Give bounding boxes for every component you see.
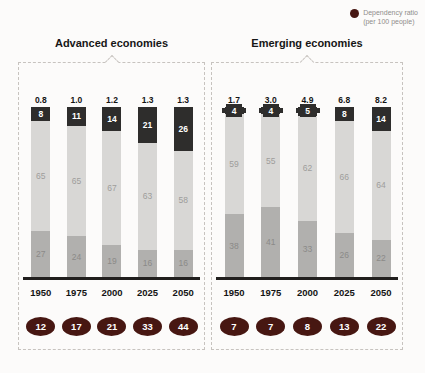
legend-label-line1: Dependency ratio (363, 8, 418, 17)
stacked-bar: 8 66 26 (335, 107, 354, 277)
segment-working: 55 (261, 114, 280, 208)
segment-working: 62 (298, 116, 317, 221)
emerging-economies-title: Emerging economies (211, 37, 403, 49)
population-label: 0.8 (35, 95, 47, 105)
stacked-bar: 5 62 33 (298, 107, 317, 277)
oval-cell: 21 (94, 317, 130, 336)
chart-canvas: Dependency ratio (per 100 people) Advanc… (0, 0, 425, 373)
bar-group: 1.3 26 58 16 (165, 95, 201, 277)
segment-old: 14 (102, 107, 121, 131)
dependency-ratio-badge: 33 (133, 317, 162, 336)
stacked-bar: 26 58 16 (174, 107, 193, 277)
segment-young: 33 (298, 221, 317, 277)
legend: Dependency ratio (per 100 people) (350, 8, 418, 26)
dependency-ratio-badge: 13 (330, 317, 359, 336)
legend-label-line2: (per 100 people) (363, 17, 418, 26)
year-tick: 2000 (290, 287, 326, 298)
year-tick: 1975 (59, 287, 95, 298)
bar-group: 1.3 21 63 16 (130, 95, 166, 277)
population-label: 1.3 (177, 95, 189, 105)
segment-working: 67 (102, 131, 121, 245)
bar-group: 4.9 5 62 33 (290, 95, 326, 277)
segment-old: 8 (335, 107, 354, 121)
year-tick: 2050 (363, 287, 399, 298)
segment-old: 5 (298, 107, 317, 116)
stacked-bar: 14 64 22 (372, 107, 391, 277)
segment-working: 64 (372, 131, 391, 240)
stacked-bar: 14 67 19 (102, 107, 121, 277)
segment-old: 4 (225, 107, 244, 114)
emerging-economies-panel: 1.7 4 59 38 3.0 4 55 41 4.9 5 6 (211, 62, 403, 350)
year-tick: 2050 (165, 287, 201, 298)
segment-old: 8 (31, 107, 50, 121)
year-tick: 1950 (23, 287, 59, 298)
oval-cell: 8 (290, 317, 326, 336)
panel-pointer-icon (300, 55, 314, 69)
segment-young: 16 (174, 250, 193, 277)
segment-working: 66 (335, 121, 354, 233)
segment-old: 21 (138, 107, 157, 143)
segment-working: 63 (138, 143, 157, 250)
dependency-ratio-badge: 21 (97, 317, 126, 336)
dependency-ratio-badge: 7 (220, 317, 249, 336)
segment-working: 65 (31, 121, 50, 232)
stacked-bar: 4 55 41 (261, 107, 280, 277)
dependency-ratio-badge: 17 (62, 317, 91, 336)
dependency-ratio-badge: 44 (169, 317, 198, 336)
stacked-bar: 21 63 16 (138, 107, 157, 277)
oval-cell: 44 (165, 317, 201, 336)
bar-group: 1.0 11 65 24 (59, 95, 95, 277)
bar-group: 8.2 14 64 22 (363, 95, 399, 277)
dependency-ratio-row: 12 17 21 33 44 (23, 317, 201, 336)
bar-group: 3.0 4 55 41 (253, 95, 289, 277)
segment-old: 4 (261, 107, 280, 114)
legend-label: Dependency ratio (per 100 people) (363, 8, 418, 26)
oval-cell: 22 (363, 317, 399, 336)
oval-cell: 13 (326, 317, 362, 336)
advanced-economies-title: Advanced economies (18, 37, 205, 49)
segment-young: 38 (225, 214, 244, 279)
population-label: 1.3 (142, 95, 154, 105)
years-row: 1950 1975 2000 2025 2050 (216, 287, 399, 298)
bar-group: 1.2 14 67 19 (94, 95, 130, 277)
oval-cell: 7 (216, 317, 252, 336)
population-label: 6.8 (338, 95, 350, 105)
segment-old: 11 (67, 107, 86, 126)
segment-working: 58 (174, 151, 193, 250)
segment-young: 24 (67, 236, 86, 277)
dependency-ratio-badge: 7 (256, 317, 285, 336)
segment-young: 41 (261, 207, 280, 277)
segment-working: 59 (225, 114, 244, 214)
bar-group: 1.7 4 59 38 (216, 95, 252, 277)
advanced-economies-panel: 0.8 8 65 27 1.0 11 65 24 1.2 14 (18, 62, 205, 350)
oval-cell: 33 (130, 317, 166, 336)
year-tick: 2025 (326, 287, 362, 298)
year-tick: 1950 (216, 287, 252, 298)
bar-group: 0.8 8 65 27 (23, 95, 59, 277)
segment-young: 19 (102, 245, 121, 277)
population-label: 8.2 (375, 95, 387, 105)
segment-young: 16 (138, 250, 157, 277)
dependency-ratio-row: 7 7 8 13 22 (216, 317, 399, 336)
population-label: 1.0 (70, 95, 82, 105)
bars-row: 1.7 4 59 38 3.0 4 55 41 4.9 5 6 (216, 95, 399, 277)
oval-cell: 17 (59, 317, 95, 336)
dependency-ratio-dot-icon (350, 9, 359, 18)
years-row: 1950 1975 2000 2025 2050 (23, 287, 201, 298)
stacked-bar: 8 65 27 (31, 107, 50, 277)
oval-cell: 12 (23, 317, 59, 336)
segment-young: 22 (372, 240, 391, 277)
x-axis-line (216, 277, 398, 280)
dependency-ratio-badge: 12 (26, 317, 55, 336)
x-axis-line (23, 277, 200, 280)
dependency-ratio-badge: 22 (367, 317, 396, 336)
year-tick: 2025 (130, 287, 166, 298)
segment-young: 26 (335, 233, 354, 277)
year-tick: 2000 (94, 287, 130, 298)
bars-row: 0.8 8 65 27 1.0 11 65 24 1.2 14 (23, 95, 201, 277)
segment-old: 14 (372, 107, 391, 131)
dependency-ratio-badge: 8 (293, 317, 322, 336)
oval-cell: 7 (253, 317, 289, 336)
stacked-bar: 11 65 24 (67, 107, 86, 277)
year-tick: 1975 (253, 287, 289, 298)
